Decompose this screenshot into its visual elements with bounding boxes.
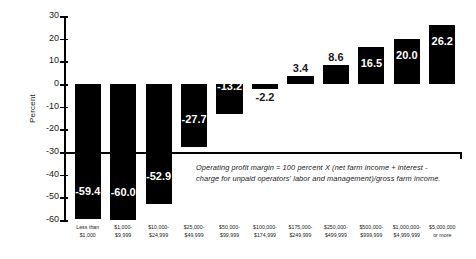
y-tick-label: -60 bbox=[33, 214, 59, 224]
y-tick-mark bbox=[60, 152, 68, 154]
bar-value-label: -52.9 bbox=[140, 170, 178, 182]
x-tick-label: $5,000,000or more bbox=[421, 224, 464, 239]
bar-value-label: 8.6 bbox=[317, 51, 355, 63]
bar-value-label: 16.5 bbox=[352, 57, 390, 69]
y-tick-mark bbox=[60, 84, 68, 86]
bar-value-label: -2.2 bbox=[246, 91, 284, 103]
y-tick-mark bbox=[60, 61, 68, 63]
bar[interactable] bbox=[252, 84, 278, 89]
y-tick-mark bbox=[60, 16, 68, 18]
bar[interactable] bbox=[429, 25, 455, 84]
bar-value-label: -27.7 bbox=[175, 113, 213, 125]
y-tick-label: -10 bbox=[33, 101, 59, 111]
x-tick-label-line: $5,000,000 bbox=[421, 224, 464, 232]
y-tick-label: -20 bbox=[33, 123, 59, 133]
y-tick-label: -50 bbox=[33, 191, 59, 201]
bar-value-label: -59.4 bbox=[69, 185, 107, 197]
x-tick-label-line: or more bbox=[421, 232, 464, 240]
y-tick-label: 10 bbox=[33, 55, 59, 65]
bar-value-label: -13.2 bbox=[210, 80, 248, 92]
y-tick-mark bbox=[60, 107, 68, 109]
bar[interactable] bbox=[75, 84, 101, 219]
y-tick-mark bbox=[60, 197, 68, 199]
definition-annotation: Operating profit margin = 100 percent X … bbox=[196, 162, 448, 184]
bar[interactable] bbox=[287, 76, 313, 84]
y-tick-label: 0 bbox=[33, 78, 59, 88]
y-axis-line bbox=[64, 16, 66, 220]
bar-chart-figure: Percent 3020100-10-20-30-40-50-60 -59.4-… bbox=[0, 0, 476, 259]
y-tick-label: 30 bbox=[33, 10, 59, 20]
y-tick-label: -30 bbox=[33, 146, 59, 156]
bar[interactable] bbox=[146, 84, 172, 204]
bar[interactable] bbox=[394, 39, 420, 84]
bar[interactable] bbox=[110, 84, 136, 220]
bar[interactable] bbox=[323, 65, 349, 84]
y-tick-label: -40 bbox=[33, 169, 59, 179]
plot-area: 3020100-10-20-30-40-50-60 -59.4-60.0-52.… bbox=[64, 16, 462, 220]
y-tick-mark bbox=[60, 129, 68, 131]
y-tick-mark bbox=[60, 175, 68, 177]
bar-value-label: 3.4 bbox=[281, 62, 319, 74]
axis-right-tick bbox=[460, 152, 462, 159]
bar-value-label: 26.2 bbox=[423, 35, 461, 47]
bar-value-label: -60.0 bbox=[104, 186, 142, 198]
y-tick-label: 20 bbox=[33, 33, 59, 43]
bar-value-label: 20.0 bbox=[388, 49, 426, 61]
y-tick-mark bbox=[60, 220, 68, 222]
y-tick-mark bbox=[60, 39, 68, 41]
